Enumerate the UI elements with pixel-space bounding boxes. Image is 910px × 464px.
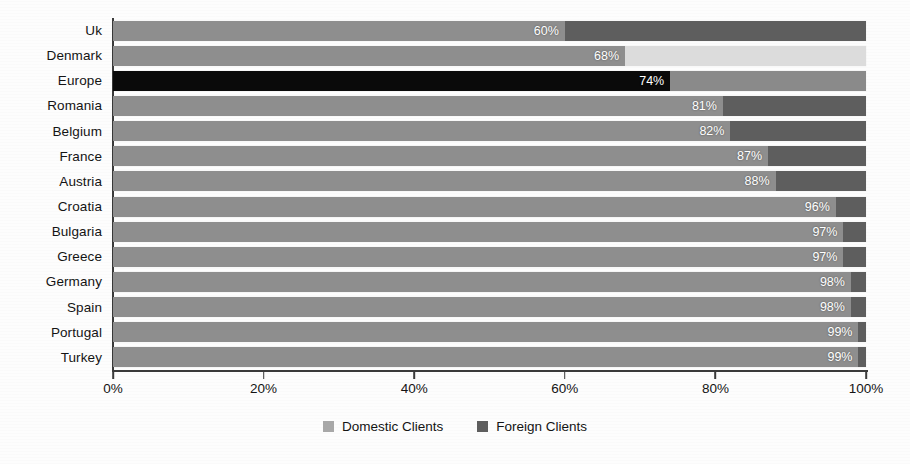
bar-row: 68% [113, 46, 866, 66]
stacked-bar: 97% [113, 222, 866, 242]
y-axis-label: Romania [0, 93, 105, 118]
bar-segment-foreign [723, 96, 866, 116]
bar-row: 60% [113, 21, 866, 41]
bar-segment-foreign [768, 146, 866, 166]
stacked-bar: 97% [113, 247, 866, 267]
bar-segment-foreign [843, 222, 866, 242]
bar-value-label: 74% [639, 74, 664, 88]
x-axis-tick-label: 60% [551, 381, 578, 396]
bar-row: 88% [113, 171, 866, 191]
bar-row: 74% [113, 71, 866, 91]
bar-segment-foreign [843, 247, 866, 267]
stacked-bar: 68% [113, 46, 866, 66]
bar-segment-domestic: 99% [113, 322, 858, 342]
x-axis-tick [263, 372, 265, 379]
y-axis-label: France [0, 144, 105, 169]
y-axis-category-labels: UkDenmarkEuropeRomaniaBelgiumFranceAustr… [0, 18, 105, 370]
legend-label: Domestic Clients [342, 419, 443, 434]
bar-row: 81% [113, 96, 866, 116]
y-axis-label: Germany [0, 269, 105, 294]
bar-row: 99% [113, 347, 866, 367]
bar-value-label: 98% [820, 275, 845, 289]
x-axis-tick [865, 372, 867, 379]
x-axis-tick-label: 40% [401, 381, 428, 396]
bar-value-label: 99% [827, 325, 852, 339]
bar-segment-foreign [858, 322, 866, 342]
y-axis-label: Croatia [0, 194, 105, 219]
legend-label: Foreign Clients [496, 419, 587, 434]
bar-segment-foreign [565, 21, 866, 41]
y-axis-label: Greece [0, 244, 105, 269]
x-axis-tick [112, 372, 114, 379]
bar-segment-foreign [730, 121, 866, 141]
bar-value-label: 88% [745, 174, 770, 188]
x-axis-tick [564, 372, 566, 379]
y-axis-label: Turkey [0, 345, 105, 370]
bar-segment-domestic: 96% [113, 197, 836, 217]
y-axis-label: Austria [0, 169, 105, 194]
x-axis-tick-label: 20% [250, 381, 277, 396]
bar-segment-domestic: 81% [113, 96, 723, 116]
stacked-bar: 96% [113, 197, 866, 217]
bar-segment-foreign [670, 71, 866, 91]
stacked-bar: 74% [113, 71, 866, 91]
bar-segment-foreign [858, 347, 866, 367]
bar-value-label: 96% [805, 200, 830, 214]
y-axis-label: Denmark [0, 43, 105, 68]
bar-value-label: 81% [692, 99, 717, 113]
y-axis-label: Uk [0, 18, 105, 43]
stacked-bar: 88% [113, 171, 866, 191]
bar-value-label: 97% [812, 250, 837, 264]
y-axis-label: Belgium [0, 119, 105, 144]
x-axis-line [112, 370, 868, 372]
stacked-bar: 81% [113, 96, 866, 116]
bar-segment-domestic: 88% [113, 171, 776, 191]
stacked-bar: 82% [113, 121, 866, 141]
stacked-bar: 87% [113, 146, 866, 166]
bar-value-label: 60% [534, 24, 559, 38]
stacked-bar: 60% [113, 21, 866, 41]
bar-value-label: 82% [699, 124, 724, 138]
bar-segment-domestic: 98% [113, 272, 851, 292]
y-axis-label: Spain [0, 295, 105, 320]
bar-segment-domestic: 68% [113, 46, 625, 66]
bar-segment-foreign [836, 197, 866, 217]
plot-area: 60%68%74%81%82%87%88%96%97%97%98%98%99%9… [113, 18, 866, 370]
bar-segment-foreign [776, 171, 866, 191]
bar-segment-domestic: 98% [113, 297, 851, 317]
bar-row: 99% [113, 322, 866, 342]
chart-legend: Domestic ClientsForeign Clients [0, 419, 910, 434]
y-axis-label: Portugal [0, 320, 105, 345]
bar-row: 97% [113, 222, 866, 242]
x-axis-tick-label: 100% [849, 381, 884, 396]
bar-segment-domestic: 97% [113, 247, 843, 267]
y-axis-label: Bulgaria [0, 219, 105, 244]
stacked-bar: 99% [113, 322, 866, 342]
bar-value-label: 87% [737, 149, 762, 163]
bar-segment-domestic: 74% [113, 71, 670, 91]
bar-value-label: 99% [827, 350, 852, 364]
bar-segment-domestic: 60% [113, 21, 565, 41]
chart-page: UkDenmarkEuropeRomaniaBelgiumFranceAustr… [0, 0, 910, 464]
stacked-bar: 98% [113, 272, 866, 292]
stacked-bar: 99% [113, 347, 866, 367]
bar-segment-domestic: 97% [113, 222, 843, 242]
y-axis-label: Europe [0, 68, 105, 93]
bar-segment-domestic: 82% [113, 121, 730, 141]
stacked-bar: 98% [113, 297, 866, 317]
legend-item[interactable]: Domestic Clients [323, 419, 443, 434]
bar-row: 82% [113, 121, 866, 141]
bar-segment-foreign [851, 297, 866, 317]
x-axis-tick [413, 372, 415, 379]
bar-row: 97% [113, 247, 866, 267]
x-axis-tick [715, 372, 717, 379]
bar-row: 87% [113, 146, 866, 166]
x-axis-tick-label: 80% [702, 381, 729, 396]
legend-item[interactable]: Foreign Clients [477, 419, 587, 434]
bar-segment-domestic: 87% [113, 146, 768, 166]
bar-value-label: 98% [820, 300, 845, 314]
bar-row: 98% [113, 297, 866, 317]
bar-row: 96% [113, 197, 866, 217]
bar-segment-foreign [851, 272, 866, 292]
legend-swatch-icon [477, 421, 488, 432]
